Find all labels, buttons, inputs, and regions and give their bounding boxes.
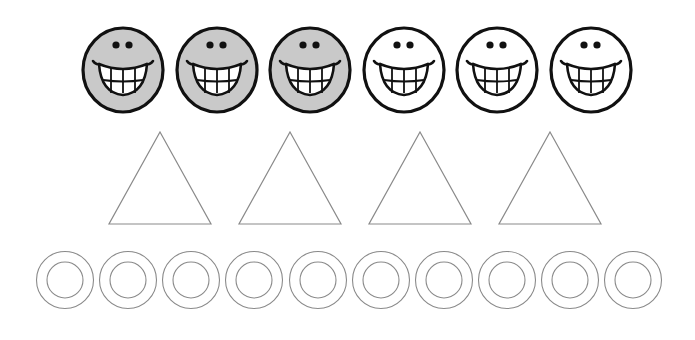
inner-circle [615,262,651,298]
outer-circle [542,252,599,309]
right-eye [312,41,319,48]
ring-shape [605,252,662,309]
smiley-face-icon [551,28,631,112]
inner-circle [173,262,209,298]
smiley-face-icon [83,28,163,112]
smiley-row [83,28,631,112]
triangle-row [109,132,601,224]
ring-shape [37,252,94,309]
left-eye [580,41,587,48]
outer-circle [163,252,220,309]
smiley-face-icon [457,28,537,112]
ring-shape [226,252,283,309]
triangle-shape [239,132,341,224]
ring-shape [290,252,347,309]
outer-circle [290,252,347,309]
right-eye [219,41,226,48]
inner-circle [552,262,588,298]
ring-shape [542,252,599,309]
ring-shape [100,252,157,309]
outer-circle [37,252,94,309]
left-eye [393,41,400,48]
right-eye [125,41,132,48]
smiley-face-icon [270,28,350,112]
inner-circle [489,262,525,298]
right-eye [406,41,413,48]
inner-circle [47,262,83,298]
outer-circle [416,252,473,309]
ring-shape [416,252,473,309]
ring-row [37,252,662,309]
inner-circle [363,262,399,298]
outer-circle [353,252,410,309]
triangle-shape [109,132,211,224]
inner-circle [426,262,462,298]
smiley-face-icon [177,28,257,112]
smiley-face-icon [364,28,444,112]
left-eye [486,41,493,48]
ring-shape [353,252,410,309]
inner-circle [110,262,146,298]
right-eye [593,41,600,48]
triangle-shape [369,132,471,224]
worksheet-canvas [0,0,695,340]
left-eye [299,41,306,48]
outer-circle [605,252,662,309]
left-eye [206,41,213,48]
inner-circle [300,262,336,298]
inner-circle [236,262,272,298]
outer-circle [479,252,536,309]
ring-shape [163,252,220,309]
outer-circle [100,252,157,309]
ring-shape [479,252,536,309]
worksheet: Counting / fraction worksheet: smiley fa… [0,0,695,340]
left-eye [112,41,119,48]
triangle-shape [499,132,601,224]
right-eye [499,41,506,48]
outer-circle [226,252,283,309]
